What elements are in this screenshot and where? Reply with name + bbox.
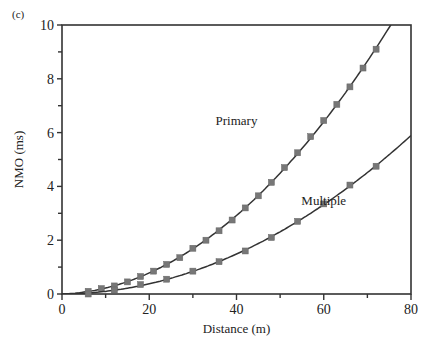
marker-primary [98,286,104,292]
marker-multiple [190,268,196,274]
marker-primary [308,134,314,140]
marker-multiple [347,182,353,188]
marker-primary [281,165,287,171]
x-tick-label: 80 [404,302,418,317]
marker-primary [229,217,235,223]
x-axis-label: Distance (m) [203,321,271,336]
marker-multiple [373,163,379,169]
y-tick-label: 6 [47,126,54,141]
annotation-primary: Primary [216,113,258,128]
y-tick-label: 8 [47,72,54,87]
marker-multiple [138,282,144,288]
x-tick-label: 60 [317,302,331,317]
marker-primary [177,255,183,261]
marker-primary [373,46,379,52]
marker-multiple [216,259,222,265]
marker-primary [347,84,353,90]
y-tick-label: 2 [47,233,54,248]
y-tick-label: 10 [40,18,54,33]
marker-primary [321,117,327,123]
annotation-multiple: Multiple [301,193,346,208]
marker-multiple [268,235,274,241]
curve-primary [62,0,411,294]
y-tick-label: 0 [47,287,54,302]
marker-primary [151,268,157,274]
nmo-chart: (c)0246810020406080Distance (m)NMO (ms)P… [0,0,426,343]
marker-primary [360,65,366,71]
x-tick-label: 40 [230,302,244,317]
x-tick-label: 20 [142,302,156,317]
marker-multiple [295,218,301,224]
marker-primary [268,179,274,185]
marker-multiple [242,248,248,254]
marker-primary [190,245,196,251]
marker-primary [124,279,130,285]
y-axis-label: NMO (ms) [11,131,26,188]
marker-primary [255,193,261,199]
panel-label: (c) [12,8,25,21]
x-tick-label: 0 [59,302,66,317]
marker-primary [216,228,222,234]
marker-primary [164,261,170,267]
marker-multiple [164,276,170,282]
marker-primary [138,274,144,280]
marker-primary [203,237,209,243]
marker-primary [242,205,248,211]
marker-primary [334,101,340,107]
marker-multiple [111,287,117,293]
y-tick-label: 4 [47,179,54,194]
marker-primary [295,150,301,156]
marker-multiple [85,291,91,297]
